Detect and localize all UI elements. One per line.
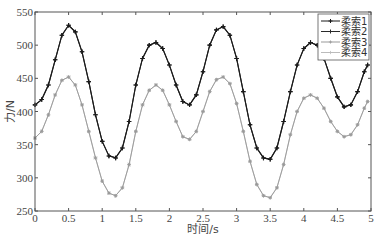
star-marker bbox=[134, 130, 138, 134]
star-marker bbox=[302, 96, 306, 100]
star-marker bbox=[80, 103, 84, 107]
star-marker bbox=[188, 138, 192, 142]
x-tick-label: 4.5 bbox=[331, 212, 345, 224]
star-marker bbox=[275, 186, 279, 190]
y-tick-label: 500 bbox=[17, 39, 34, 51]
star-marker bbox=[114, 194, 118, 198]
legend-label: 柔索1 bbox=[341, 15, 367, 27]
star-marker bbox=[161, 88, 165, 92]
star-marker bbox=[356, 123, 360, 127]
line-chart: 00.511.522.533.544.552503003504004505005… bbox=[0, 0, 378, 237]
star-marker bbox=[282, 163, 286, 167]
legend-label: 柔索4 bbox=[341, 46, 367, 58]
x-tick-label: 1 bbox=[99, 212, 105, 224]
legend: 柔索1柔索2柔索3柔索4 bbox=[318, 14, 369, 60]
legend-label: 柔索2 bbox=[341, 25, 367, 37]
y-tick-label: 300 bbox=[17, 172, 34, 184]
star-marker bbox=[235, 102, 239, 106]
star-marker bbox=[342, 135, 346, 139]
y-tick-label: 350 bbox=[17, 139, 34, 151]
star-marker bbox=[141, 103, 145, 107]
star-marker bbox=[242, 130, 246, 134]
star-marker bbox=[181, 135, 185, 139]
star-marker bbox=[127, 163, 131, 167]
star-marker bbox=[208, 90, 212, 94]
star-marker bbox=[228, 82, 232, 86]
star-marker bbox=[295, 110, 299, 114]
x-tick-label: 0.5 bbox=[62, 212, 76, 224]
star-marker bbox=[248, 159, 252, 163]
star-marker bbox=[309, 93, 313, 97]
star-marker bbox=[322, 106, 326, 110]
star-marker bbox=[121, 186, 125, 190]
star-marker bbox=[154, 83, 158, 87]
x-tick-label: 4 bbox=[301, 212, 307, 224]
star-marker bbox=[268, 196, 272, 200]
x-tick-label: 2 bbox=[167, 212, 173, 224]
star-marker bbox=[366, 100, 370, 104]
x-tick-label: 1.5 bbox=[129, 212, 143, 224]
y-axis-label: 力/N bbox=[4, 100, 17, 123]
star-marker bbox=[168, 103, 172, 107]
star-marker bbox=[60, 79, 64, 83]
y-tick-label: 550 bbox=[17, 6, 34, 18]
star-marker bbox=[47, 113, 51, 117]
y-tick-label: 250 bbox=[17, 205, 34, 217]
star-marker bbox=[67, 75, 71, 79]
star-marker bbox=[336, 130, 340, 134]
star-marker bbox=[315, 96, 319, 100]
star-marker bbox=[255, 183, 259, 187]
star-marker bbox=[215, 78, 219, 82]
x-tick-label: 3 bbox=[234, 212, 240, 224]
star-marker bbox=[329, 120, 333, 124]
star-marker bbox=[94, 156, 98, 160]
star-marker bbox=[349, 133, 353, 137]
star-marker bbox=[100, 179, 104, 183]
star-marker bbox=[221, 75, 225, 79]
star-marker bbox=[74, 83, 78, 87]
star-marker bbox=[174, 120, 178, 124]
x-axis-label: 时间/s bbox=[187, 223, 219, 236]
legend-label: 柔索3 bbox=[341, 36, 367, 48]
star-marker bbox=[87, 130, 91, 134]
x-tick-label: 3.5 bbox=[263, 212, 277, 224]
star-marker bbox=[194, 130, 198, 134]
star-marker bbox=[362, 106, 366, 110]
y-tick-label: 400 bbox=[17, 106, 34, 118]
star-marker bbox=[147, 88, 151, 92]
star-marker bbox=[107, 191, 111, 195]
star-marker bbox=[201, 110, 205, 114]
y-tick-label: 450 bbox=[17, 72, 34, 84]
x-tick-label: 5 bbox=[368, 212, 374, 224]
star-marker bbox=[40, 130, 44, 134]
x-tick-label: 0 bbox=[32, 212, 38, 224]
star-marker bbox=[289, 133, 293, 137]
star-marker bbox=[262, 194, 266, 198]
star-marker bbox=[53, 93, 57, 97]
